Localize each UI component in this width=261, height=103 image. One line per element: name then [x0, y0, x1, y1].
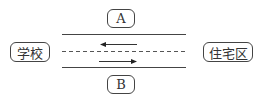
road-diagram	[0, 0, 261, 103]
arrow-left-icon	[100, 42, 137, 47]
arrow-right-icon	[99, 59, 137, 64]
